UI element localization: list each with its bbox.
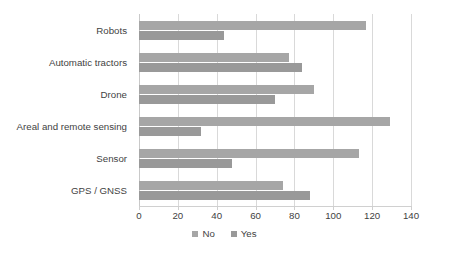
legend-label: No bbox=[202, 228, 214, 239]
chart-legend: NoYes bbox=[0, 228, 449, 239]
legend-item-yes[interactable]: Yes bbox=[231, 228, 257, 239]
gridline-140 bbox=[411, 14, 412, 206]
bar-no bbox=[139, 21, 366, 30]
category-label: Sensor bbox=[96, 153, 127, 164]
bar-yes bbox=[139, 159, 232, 168]
bar-group bbox=[139, 110, 411, 142]
bar-group bbox=[139, 174, 411, 206]
category-label: Drone bbox=[101, 89, 127, 100]
bar-group bbox=[139, 14, 411, 46]
bar-yes bbox=[139, 31, 224, 40]
category-label: Areal and remote sensing bbox=[17, 121, 127, 132]
bar-group bbox=[139, 142, 411, 174]
category-label: Robots bbox=[96, 25, 127, 36]
bar-group bbox=[139, 46, 411, 78]
bar-no bbox=[139, 149, 359, 158]
bar-no bbox=[139, 117, 390, 126]
bar-yes bbox=[139, 191, 310, 200]
legend-swatch-icon bbox=[192, 231, 198, 237]
x-tick-label: 60 bbox=[250, 210, 261, 221]
x-axis-line bbox=[139, 206, 411, 207]
legend-swatch-icon bbox=[231, 231, 237, 237]
category-label: GPS / GNSS bbox=[71, 185, 127, 196]
x-tick-label: 120 bbox=[364, 210, 380, 221]
bar-chart: RobotsAutomatic tractorsDroneAreal and r… bbox=[0, 0, 449, 253]
legend-label: Yes bbox=[241, 228, 257, 239]
x-tick-label: 40 bbox=[211, 210, 222, 221]
x-tick-label: 0 bbox=[136, 210, 141, 221]
bar-no bbox=[139, 181, 283, 190]
bar-no bbox=[139, 53, 289, 62]
plot-area bbox=[139, 14, 411, 206]
bar-yes bbox=[139, 127, 201, 136]
bar-no bbox=[139, 85, 314, 94]
bar-yes bbox=[139, 63, 302, 72]
category-axis-labels: RobotsAutomatic tractorsDroneAreal and r… bbox=[0, 14, 133, 206]
x-tick-label: 140 bbox=[403, 210, 419, 221]
category-label: Automatic tractors bbox=[49, 57, 127, 68]
bar-group bbox=[139, 78, 411, 110]
x-tick-label: 20 bbox=[172, 210, 183, 221]
x-tick-label: 100 bbox=[325, 210, 341, 221]
legend-item-no[interactable]: No bbox=[192, 228, 214, 239]
bar-yes bbox=[139, 95, 275, 104]
x-tick-label: 80 bbox=[289, 210, 300, 221]
